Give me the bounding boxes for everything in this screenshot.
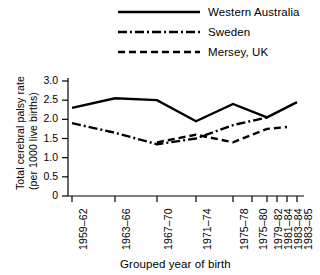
x-tick-label: 1963–66: [120, 208, 132, 250]
y-tick-label: 1.5: [32, 133, 58, 144]
y-tick-label: 1.0: [32, 152, 58, 163]
data-series-lines: [72, 98, 297, 144]
axes: [68, 78, 304, 196]
cerebral-palsy-rate-line-chart: Western Australia Sweden Mersey, UK Tota…: [0, 0, 320, 275]
x-tick-label: 1971–74: [201, 208, 213, 250]
y-axis-ticks: [62, 81, 68, 196]
x-tick-label: 1967–70: [162, 208, 174, 250]
x-tick-label: 1975–78: [238, 208, 250, 250]
y-tick-label: 0: [32, 190, 58, 201]
series-line-western-australia: [72, 98, 297, 121]
x-tick-label: 1983–85: [302, 208, 314, 250]
x-tick-label: 1975–80: [257, 208, 269, 250]
x-tick-label: 1959–62: [77, 208, 89, 250]
y-tick-label: 0.5: [32, 171, 58, 182]
x-axis-ticks: [72, 196, 297, 202]
y-tick-label: 2.5: [32, 94, 58, 105]
y-tick-label: 3.0: [32, 75, 58, 86]
y-tick-label: 2.0: [32, 113, 58, 124]
x-axis-title: Grouped year of birth: [120, 258, 231, 270]
